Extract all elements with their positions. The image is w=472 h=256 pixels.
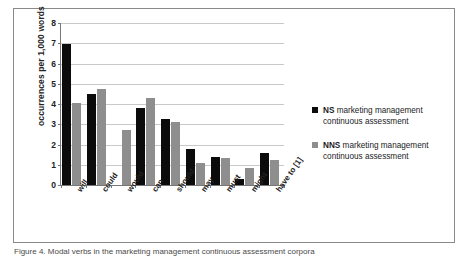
- bar: [72, 103, 81, 185]
- legend-label-rest: marketing management continuous assessme…: [323, 106, 423, 126]
- legend-entry: NNS marketing management continuous asse…: [312, 140, 462, 162]
- legend-label-lead: NS: [323, 106, 337, 115]
- legend-swatch-icon: [312, 107, 318, 113]
- bar: [97, 89, 106, 185]
- bar-group: [185, 23, 210, 185]
- bar-group: [61, 23, 86, 185]
- chart-frame: occurrences per 1,000 words 012345678 wi…: [13, 8, 455, 243]
- figure-caption: Figure 4. Modal verbs in the marketing m…: [14, 248, 454, 256]
- bar-group: [210, 23, 235, 185]
- plot-area: 012345678 willcouldwouldcanshouldmaymust…: [60, 23, 284, 186]
- legend-label-lead: NNS: [323, 141, 343, 150]
- legend-label: NNS marketing management continuous asse…: [323, 140, 462, 162]
- y-axis-tick-label: 6: [51, 59, 56, 68]
- bars-layer: [61, 23, 284, 185]
- y-axis-tick-label: 2: [51, 140, 56, 149]
- y-axis-tick-label: 1: [51, 161, 56, 170]
- legend-swatch-icon: [312, 142, 318, 148]
- legend-entry: NS marketing management continuous asses…: [312, 105, 462, 127]
- y-axis-tick-label: 5: [51, 80, 56, 89]
- bar: [161, 119, 170, 185]
- y-axis-tick-label: 3: [51, 120, 56, 129]
- bar-group: [160, 23, 185, 185]
- bar-group: [259, 23, 284, 185]
- y-axis-tick-label: 0: [51, 181, 56, 190]
- bar: [171, 122, 180, 185]
- bar: [62, 44, 71, 185]
- bar-group: [234, 23, 259, 185]
- bar-group: [111, 23, 136, 185]
- bar-group: [135, 23, 160, 185]
- y-axis-tick-label: 7: [51, 39, 56, 48]
- figure-caption-text: Figure 4. Modal verbs in the marketing m…: [14, 248, 454, 256]
- bar: [87, 94, 96, 185]
- bar: [146, 98, 155, 185]
- chart-legend: NS marketing management continuous asses…: [312, 105, 462, 175]
- bar: [122, 130, 131, 185]
- legend-label: NS marketing management continuous asses…: [323, 105, 462, 127]
- bar-group: [86, 23, 111, 185]
- y-axis-tick-label: 8: [51, 19, 56, 28]
- y-axis-title: occurrences per 1,000 words: [36, 0, 46, 141]
- figure-container: occurrences per 1,000 words 012345678 wi…: [0, 0, 472, 256]
- x-axis-tick-mark: [61, 185, 62, 188]
- y-axis-tick-label: 4: [51, 100, 56, 109]
